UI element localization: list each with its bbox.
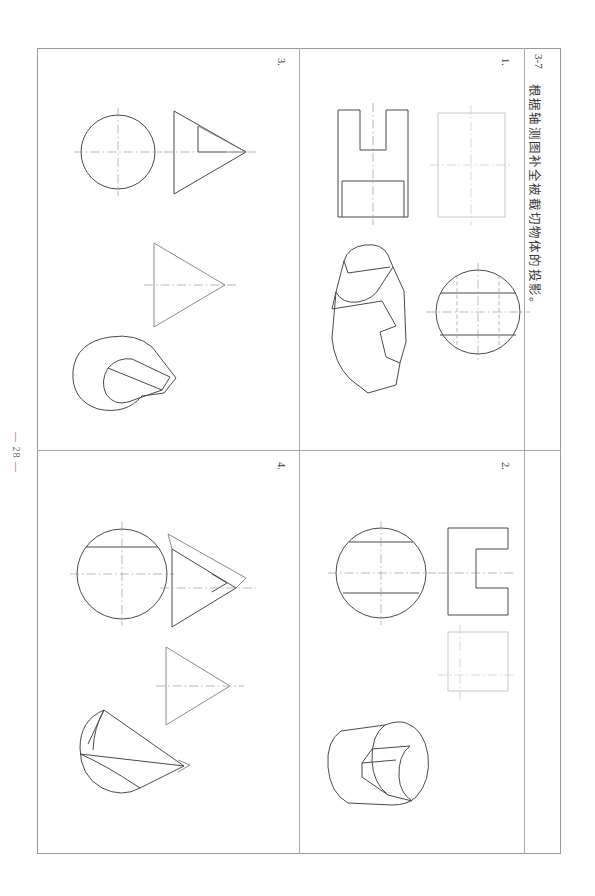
vertical-divider [299, 48, 300, 854]
problem-4-drawings [60, 512, 275, 812]
p3-side-view [144, 243, 238, 327]
horizontal-divider [37, 450, 561, 451]
problem-number-3: 3. [276, 58, 287, 66]
page-number: — 28 — [11, 432, 22, 473]
problem-number-1: 1. [500, 58, 511, 66]
problem-3-drawings [68, 95, 278, 405]
worksheet-page: 3-7 根据轴测图补全被截切物体的投影。 — 28 — 1. 2. 3. 4. [0, 0, 595, 896]
problem-number-2: 2. [500, 462, 511, 470]
problem-number-4: 4. [276, 462, 287, 470]
p2-isometric-view [328, 722, 429, 805]
p3-top-view [74, 108, 162, 196]
p4-isometric-view [80, 710, 190, 793]
p1-front-view [338, 103, 408, 225]
p1-top-view [426, 263, 530, 361]
p2-left-view [328, 521, 436, 625]
p4-top-view [70, 522, 174, 626]
p2-front-view [438, 528, 516, 615]
p3-front-view [164, 111, 258, 194]
exercise-code: 3-7 [533, 54, 545, 69]
page-title: 根据轴测图补全被截切物体的投影。 [526, 84, 545, 311]
problem-1-drawings [330, 95, 520, 395]
title-column-divider [524, 48, 525, 854]
p2-top-view-construction [438, 625, 516, 701]
p4-front-view [160, 534, 256, 627]
p1-isometric-view [332, 245, 406, 393]
problem-2-drawings [318, 505, 518, 815]
p1-side-view-construction [430, 105, 512, 225]
p3-isometric-view [73, 336, 176, 410]
p4-side-view [156, 647, 244, 725]
